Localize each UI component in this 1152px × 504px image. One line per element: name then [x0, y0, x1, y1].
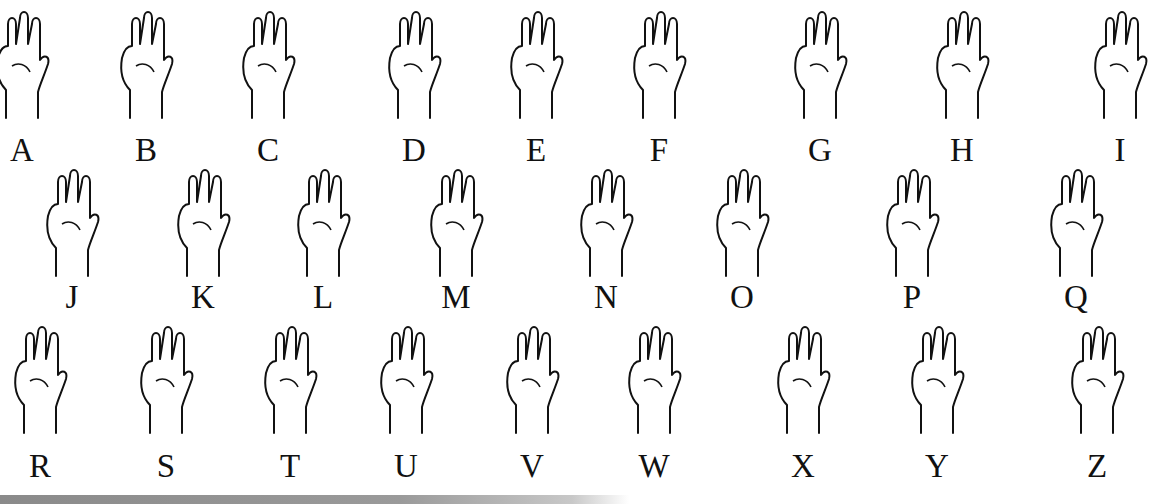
two-fingers-together-hand-icon	[356, 325, 456, 445]
flat-hand-thumb-across-hand-icon	[96, 10, 196, 130]
thumb-under-index-hand-icon	[240, 325, 340, 445]
letter-label: V	[482, 450, 582, 483]
letter-label: I	[1070, 134, 1152, 167]
letter-label: X	[753, 450, 853, 483]
letter-label: Z	[1047, 450, 1147, 483]
letter-label: Q	[1026, 281, 1126, 314]
letter-label: E	[486, 134, 586, 167]
letter-label: A	[0, 134, 72, 167]
letter-label: L	[273, 281, 373, 314]
l-shape-hand-icon	[273, 168, 373, 288]
g-pointing-down-hand-icon	[1026, 168, 1126, 288]
letter-label: R	[0, 450, 90, 483]
scanned-edge-shadow	[0, 495, 1144, 504]
three-over-thumb-hand-icon	[406, 168, 506, 288]
letter-label: G	[770, 134, 870, 167]
index-trace-z-hand-icon	[1047, 325, 1147, 445]
letter-label: J	[22, 281, 122, 314]
index-point-side-hand-icon	[770, 10, 870, 130]
letter-label: O	[692, 281, 792, 314]
letter-label: C	[218, 134, 318, 167]
letter-label: H	[912, 134, 1012, 167]
letter-label: T	[240, 450, 340, 483]
v-sign-hand-icon	[482, 325, 582, 445]
letter-label: M	[406, 281, 506, 314]
letter-label: K	[153, 281, 253, 314]
letter-label: W	[604, 450, 704, 483]
letter-label: P	[862, 281, 962, 314]
thumb-pinky-out-hand-icon	[887, 325, 987, 445]
pinky-up-hand-icon	[1070, 10, 1152, 130]
two-over-thumb-hand-icon	[556, 168, 656, 288]
hooked-index-hand-icon	[753, 325, 853, 445]
letter-label: B	[96, 134, 196, 167]
letter-label: D	[364, 134, 464, 167]
two-fingers-side-hand-icon	[912, 10, 1012, 130]
fist-thumb-side-hand-icon	[0, 10, 72, 130]
index-up-hand-icon	[364, 10, 464, 130]
k-pointing-down-hand-icon	[862, 168, 962, 288]
letter-label: S	[116, 450, 216, 483]
letter-label: U	[356, 450, 456, 483]
crossed-fingers-hand-icon	[0, 325, 90, 445]
pinky-hook-arrow-hand-icon	[22, 168, 122, 288]
letter-label: F	[609, 134, 709, 167]
three-fingers-hand-icon	[604, 325, 704, 445]
o-shape-hand-icon	[692, 168, 792, 288]
ok-three-up-hand-icon	[609, 10, 709, 130]
v-thumb-between-hand-icon	[153, 168, 253, 288]
curved-c-hand-hand-icon	[218, 10, 318, 130]
fist-thumb-front-hand-icon	[116, 325, 216, 445]
letter-label: N	[556, 281, 656, 314]
letter-label: Y	[887, 450, 987, 483]
curled-fingers-hand-icon	[486, 10, 586, 130]
